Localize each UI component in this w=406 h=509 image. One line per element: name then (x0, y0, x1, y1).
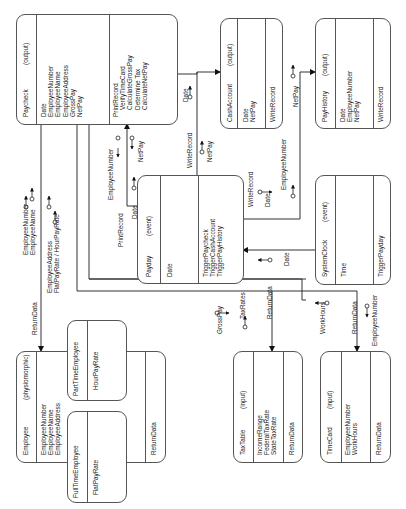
object-diagram: Paycheck (output) Date EmployeeNumber Em… (0, 0, 406, 509)
tax-table-name: TaxTable (239, 430, 246, 455)
part-time-employee-name: PartTimeEmployee (72, 342, 79, 396)
paycheck-name: Paycheck (22, 89, 29, 117)
paycheck-methods: PrintRecord VerifyTimeCard CalculateGros… (112, 55, 148, 117)
cash-account-stereotype: (output) (226, 44, 233, 66)
time-card-attributes: EmployeeNumber WorkHours (344, 404, 358, 455)
system-clock-stereotype: (event) (321, 202, 328, 222)
label-cash-write-record: WriteRecord (186, 133, 193, 168)
system-clock-methods: TriggerPayday (377, 236, 384, 277)
employee-methods: ReturnData (150, 422, 157, 455)
paycheck-stereotype: (output) (22, 43, 29, 65)
payday-name: Payday (145, 256, 152, 277)
time-card-methods: ReturnData (375, 422, 382, 455)
object-payday[interactable] (137, 175, 244, 284)
label-history-employee-number: EmployeeNumber (280, 139, 287, 190)
pay-history-methods: WriteRecord (377, 87, 384, 122)
label-paycheck-net-pay: NetPay (137, 141, 144, 162)
pay-history-name: PayHistory (321, 91, 328, 122)
label-payday-date: Date (131, 206, 138, 220)
label-employee-data-out: EmployeeNumber EmployeeName (22, 204, 36, 255)
label-tax-return-data: ReturnData (266, 286, 273, 319)
employee-name: Employee (22, 427, 29, 455)
label-tax-rates: TaxRates (239, 292, 246, 319)
system-clock-attributes: Time (340, 263, 347, 277)
full-time-employee-attributes: FlatPayRate (92, 460, 99, 495)
label-timecard-employee-number: EmployeeNumber (371, 295, 378, 346)
time-card-stereotype: (input) (326, 391, 333, 409)
payday-attributes: Date (166, 264, 173, 278)
label-tax-gross-pay: GrossPay (216, 306, 223, 334)
cash-account-attributes: Date NetPay (242, 101, 256, 122)
cash-account-name: CashAccount (226, 84, 233, 122)
tax-table-stereotype: (input) (239, 391, 246, 409)
pay-history-stereotype: (output) (321, 54, 328, 76)
system-clock-name: SystemClock (321, 240, 328, 277)
label-timecard-return-data: ReturnData (351, 301, 358, 334)
tax-table-attributes: IncomeRange FederalTaxRate StateTaxRate (256, 410, 278, 455)
label-clock-date: Date (283, 253, 290, 267)
label-cash-date: Date (182, 89, 189, 103)
label-history-net-pay: NetPay (292, 86, 299, 107)
employee-attributes: EmployeeNumber EmployeeName EmployeeAddr… (40, 403, 62, 455)
label-history-date: Date (264, 194, 271, 208)
full-time-employee-name: FullTimeEmployee (72, 445, 79, 498)
cash-account-methods: WriteRecord (269, 87, 276, 122)
pay-history-attributes: Date EmployeeNumber NetPay (339, 71, 361, 122)
label-cash-net-pay: NetPay (206, 141, 213, 162)
label-timecard-work-hours: WorkHours (319, 302, 326, 334)
employee-stereotype: (physiomorphic) (22, 355, 29, 400)
tax-table-methods: ReturnData (288, 422, 295, 455)
label-print-record: PrintRecord (117, 213, 124, 247)
time-card-name: TimeCard (326, 427, 333, 455)
part-time-employee-attributes: HourPayRate (92, 352, 99, 390)
payday-methods: TriggerPaycheck TriggerCashAccount Trigg… (202, 219, 224, 277)
label-paycheck-employee-number: EmployeeNumber (107, 149, 114, 200)
label-employee-data-back: EmployeeAddress FlatPayRate / HourPayRat… (46, 214, 60, 293)
payday-stereotype: (event) (145, 216, 152, 236)
label-history-write-record: WriteRecord (247, 172, 254, 207)
paycheck-attributes: Date EmployeeNumber EmployeeName Employe… (40, 65, 83, 117)
label-employee-message: ReturnData (31, 302, 38, 335)
